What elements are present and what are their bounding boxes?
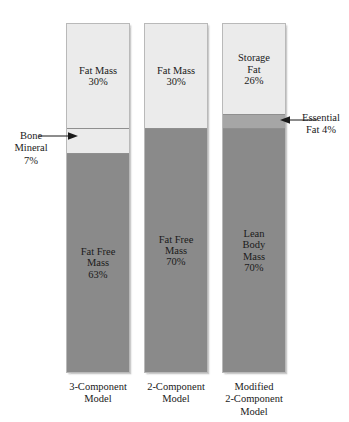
bar-segment-lean-body-mass: Lean Body Mass 70% [223,128,285,372]
body-composition-figure: Fat Mass 30% Fat Free Mass 63% Fat Mass … [0,0,349,422]
stacked-bar-2-component: Fat Mass 30% Fat Free Mass 70% [144,23,208,373]
bar-segment-fat-mass: Fat Mass 30% [145,24,207,128]
annotation-essential-fat: Essential Fat 4% [293,112,349,137]
segment-label-line: Mass [81,257,116,268]
bar-segment-fat-free-mass: Fat Free Mass 70% [145,128,207,372]
annotation-line: Essential [293,112,349,124]
caption-modified-2-component-model: Modified 2-Component Model [202,381,306,418]
caption-line: Model [202,406,306,418]
bar-segment-bone-mineral [67,128,129,152]
segment-label-line: Mass [159,245,194,256]
stacked-bar-modified-2-component: Storage Fat 26% Lean Body Mass 70% [222,23,286,373]
bar-segment-label: Fat Mass 30% [156,65,196,88]
bar-segment-label: Fat Free Mass 70% [158,234,195,268]
bar-segment-fat-mass: Fat Mass 30% [67,24,129,128]
annotation-value: Fat 4% [293,124,349,136]
segment-label-line: Fat Free [159,234,194,245]
bar-segment-fat-free-mass: Fat Free Mass 63% [67,153,129,372]
bar-segment-label: Fat Free Mass 63% [80,246,117,280]
bar-segment-label: Storage Fat 26% [237,52,271,86]
segment-value-line: 26% [238,75,270,86]
segment-label-line: Fat [238,64,270,75]
caption-line: 2-Component [202,393,306,405]
segment-label-line: Fat Mass [79,65,117,76]
segment-value-line: 70% [159,256,194,267]
stacked-bar-3-component: Fat Mass 30% Fat Free Mass 63% [66,23,130,373]
bar-segment-label: Lean Body Mass 70% [242,228,267,273]
segment-label-line: Body [243,239,266,250]
bar-segment-label: Fat Mass 30% [78,65,118,88]
bar-segment-storage-fat: Storage Fat 26% [223,24,285,114]
segment-label-line: Fat Mass [157,65,195,76]
annotation-bone-mineral: Bone Mineral 7% [2,130,60,167]
segment-label-line: Storage [238,52,270,63]
annotation-value: 7% [2,155,60,167]
caption-line: Modified [202,381,306,393]
segment-value-line: 63% [81,269,116,280]
segment-value-line: 30% [79,76,117,87]
segment-label-line: Mass [243,251,266,262]
bar-segment-essential-fat [223,114,285,128]
annotation-line: Mineral [2,142,60,154]
segment-label-line: Lean [243,228,266,239]
segment-value-line: 30% [157,76,195,87]
annotation-line: Bone [2,130,60,142]
segment-value-line: 70% [243,262,266,273]
segment-label-line: Fat Free [81,246,116,257]
